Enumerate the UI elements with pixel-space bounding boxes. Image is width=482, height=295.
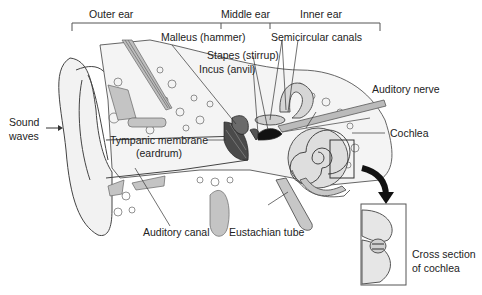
label-tympanic-membrane-2: (eardrum) [136,147,182,159]
region-label-outer-ear: Outer ear [89,8,133,20]
label-incus: Incus (anvil) [199,63,256,75]
label-cross-section-2: of cochlea [412,262,460,274]
label-malleus: Malleus (hammer) [161,31,246,43]
region-bracket [72,23,380,31]
label-auditory-canal: Auditory canal [143,226,210,238]
pinna [59,58,112,236]
label-cross-section-1: Cross section [412,248,476,260]
label-semicircular-canals: Semicircular canals [271,31,362,43]
label-sound-waves-2: waves [9,130,39,142]
label-eustachian-tube: Eustachian tube [229,226,304,238]
region-label-inner-ear: Inner ear [300,8,342,20]
region-label-middle-ear: Middle ear [221,8,270,20]
label-stapes: Stapes (stirrup) [207,49,279,61]
label-sound-waves-1: Sound [9,116,39,128]
label-auditory-nerve: Auditory nerve [372,83,440,95]
sound-waves-arrow [46,125,63,131]
ear-anatomy-illustration [0,0,482,295]
label-cochlea: Cochlea [390,127,429,139]
label-tympanic-membrane-1: Tympanic membrane [110,134,208,146]
cochlea-cross-section-inset [361,204,406,285]
